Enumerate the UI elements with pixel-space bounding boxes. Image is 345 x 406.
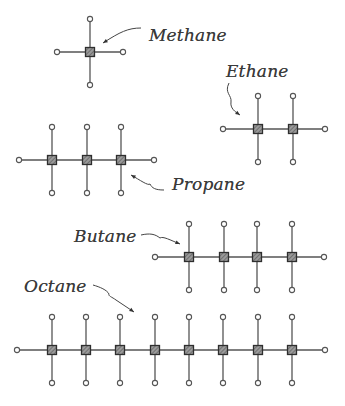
carbon-atom <box>48 346 57 355</box>
hydrogen-atom <box>255 380 260 385</box>
hydrogen-atom <box>120 49 125 54</box>
hydrogen-atom <box>289 287 294 292</box>
hydrogen-atom <box>49 190 54 195</box>
carbon-atom <box>288 346 297 355</box>
pointer-arrow <box>103 28 141 43</box>
hydrogen-atom <box>254 287 259 292</box>
molecule-propane <box>16 124 164 195</box>
hydrogen-atom <box>255 314 260 319</box>
arrowhead-icon <box>175 240 180 244</box>
hydrogen-atom <box>54 49 59 54</box>
carbon-atom <box>151 346 160 355</box>
carbon-atom <box>48 156 57 165</box>
carbon-atom <box>86 48 95 57</box>
hydrogen-atom <box>117 314 122 319</box>
carbon-atom <box>254 346 263 355</box>
hydrogen-atom <box>322 347 327 352</box>
hydrogen-atom <box>16 157 21 162</box>
hydrogen-atom <box>221 221 226 226</box>
hydrogen-atom <box>49 314 54 319</box>
hydrogen-atom <box>83 380 88 385</box>
pointer-arrow <box>131 175 164 190</box>
carbon-atom <box>288 253 297 262</box>
hydrogen-atom <box>186 287 191 292</box>
molecule-methane <box>54 16 141 87</box>
arrowhead-icon <box>129 308 134 312</box>
hydrogen-atom <box>186 314 191 319</box>
hydrogen-atom <box>254 221 259 226</box>
carbon-atom <box>289 125 298 134</box>
carbon-atom <box>220 253 229 262</box>
hydrogen-atom <box>255 93 260 98</box>
pointer-arrow <box>141 234 180 244</box>
hydrogen-atom <box>117 380 122 385</box>
hydrogen-atom <box>152 254 157 259</box>
hydrogen-atom <box>14 347 19 352</box>
hydrogen-atom <box>290 93 295 98</box>
molecule-structures <box>0 0 345 406</box>
pointer-arrow <box>93 285 134 312</box>
hydrogen-atom <box>151 157 156 162</box>
hydrogen-atom <box>221 287 226 292</box>
hydrogen-atom <box>322 126 327 131</box>
hydrogen-atom <box>289 380 294 385</box>
label-propane: Propane <box>172 176 245 193</box>
carbon-atom <box>116 346 125 355</box>
label-butane: Butane <box>74 228 137 245</box>
hydrogen-atom <box>220 126 225 131</box>
hydrogen-atom <box>118 124 123 129</box>
hydrogen-atom <box>152 314 157 319</box>
carbon-atom <box>185 346 194 355</box>
hydrogen-atom <box>118 190 123 195</box>
hydrogen-atom <box>186 380 191 385</box>
hydrogen-atom <box>84 190 89 195</box>
molecule-ethane <box>220 83 327 165</box>
label-methane: Methane <box>149 27 227 44</box>
carbon-atom <box>83 156 92 165</box>
hydrogen-atom <box>220 314 225 319</box>
molecule-octane <box>14 285 327 386</box>
hydrogen-atom <box>152 380 157 385</box>
hydrogen-atom <box>220 380 225 385</box>
carbon-atom <box>82 346 91 355</box>
hydrogen-atom <box>49 380 54 385</box>
hydrogen-atom <box>255 159 260 164</box>
hydrogen-atom <box>289 221 294 226</box>
pointer-arrow <box>227 83 240 115</box>
hydrogen-atom <box>290 159 295 164</box>
arrowhead-icon <box>103 39 108 43</box>
hydrogen-atom <box>321 254 326 259</box>
hydrogen-atom <box>49 124 54 129</box>
hydrogen-atom <box>87 82 92 87</box>
hydrogen-atom <box>87 16 92 21</box>
carbon-atom <box>219 346 228 355</box>
alkane-diagram: Methane Ethane Propane Butane Octane <box>0 0 345 406</box>
carbon-atom <box>253 253 262 262</box>
carbon-atom <box>185 253 194 262</box>
hydrogen-atom <box>84 124 89 129</box>
carbon-atom <box>254 125 263 134</box>
hydrogen-atom <box>289 314 294 319</box>
carbon-atom <box>117 156 126 165</box>
label-octane: Octane <box>24 278 87 295</box>
hydrogen-atom <box>83 314 88 319</box>
hydrogen-atom <box>186 221 191 226</box>
molecule-butane <box>141 221 327 292</box>
label-ethane: Ethane <box>226 63 289 80</box>
